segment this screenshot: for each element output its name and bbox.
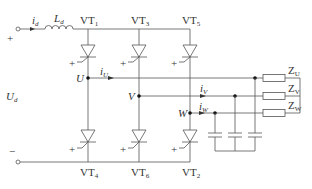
thyristor-vt1-icon [77,45,96,62]
circuit-drawing [0,0,312,189]
vt3-label: VT3 [131,15,149,28]
zv-label: ZV [288,83,300,96]
thyristor-vt2-icon [179,130,198,148]
iw-label: iW [199,101,208,114]
gate-plus-vt3: + [120,58,126,69]
ud-label: Ud [6,91,17,104]
thyristor-vt6-icon [128,130,147,148]
vt2-label: VT2 [182,167,200,180]
inductor-icon [45,26,73,29]
gate-plus-vt5: + [171,58,177,69]
zw-label: ZW [288,100,301,113]
load-zv-icon [263,93,285,100]
load-zw-icon [263,110,285,117]
vt1-label: VT1 [80,15,98,28]
load-zu-icon [263,75,285,82]
node-w-label: W [178,108,187,119]
thyristor-vt3-icon [128,45,147,62]
iu-label: iU [100,66,108,79]
plus-label: + [7,33,13,44]
node-v-label: V [128,91,135,102]
gate-plus-vt2: + [171,144,177,155]
ld-label: Ld [54,13,64,26]
thyristor-vt4-icon [77,130,96,148]
negative-terminal [16,160,20,164]
vt4-label: VT4 [80,167,98,180]
vt6-label: VT6 [131,167,149,180]
gate-plus-vt6: + [120,144,126,155]
iu-arrow-icon [108,76,114,80]
zu-label: ZU [288,65,300,78]
node-u-label: U [76,73,84,84]
id-label: id [32,15,39,28]
positive-terminal [16,27,20,31]
thyristor-vt5-icon [179,45,198,62]
iv-label: iV [200,83,207,96]
capacitor-icon [208,133,262,137]
gate-plus-vt1: + [69,58,75,69]
minus-label: − [9,146,15,157]
gate-plus-vt4: + [69,144,75,155]
vt5-label: VT5 [182,15,200,28]
